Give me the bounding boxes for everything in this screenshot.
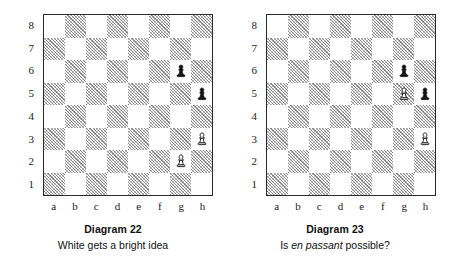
square-g5[interactable]	[170, 83, 191, 106]
square-a3[interactable]	[44, 128, 65, 151]
square-c1[interactable]	[309, 173, 330, 196]
square-h5[interactable]	[414, 83, 435, 106]
square-f8[interactable]	[372, 15, 393, 38]
square-h1[interactable]	[191, 173, 212, 196]
square-b8[interactable]	[288, 15, 309, 38]
square-f2[interactable]	[149, 150, 170, 173]
square-g6[interactable]	[393, 60, 414, 83]
square-g2[interactable]	[393, 150, 414, 173]
square-b1[interactable]	[65, 173, 86, 196]
square-d1[interactable]	[107, 173, 128, 196]
square-g8[interactable]	[170, 15, 191, 38]
square-b2[interactable]	[288, 150, 309, 173]
square-f8[interactable]	[149, 15, 170, 38]
square-b3[interactable]	[65, 128, 86, 151]
square-a1[interactable]	[44, 173, 65, 196]
square-h6[interactable]	[191, 60, 212, 83]
square-c2[interactable]	[309, 150, 330, 173]
square-h3[interactable]	[191, 128, 212, 151]
square-b6[interactable]	[288, 60, 309, 83]
square-d1[interactable]	[330, 173, 351, 196]
square-e1[interactable]	[351, 173, 372, 196]
square-e6[interactable]	[128, 60, 149, 83]
square-c2[interactable]	[86, 150, 107, 173]
square-f1[interactable]	[149, 173, 170, 196]
square-f2[interactable]	[372, 150, 393, 173]
square-d7[interactable]	[330, 38, 351, 61]
square-a2[interactable]	[44, 150, 65, 173]
square-h2[interactable]	[191, 150, 212, 173]
square-e2[interactable]	[351, 150, 372, 173]
square-c5[interactable]	[309, 83, 330, 106]
square-g7[interactable]	[393, 38, 414, 61]
square-h3[interactable]	[414, 128, 435, 151]
square-d7[interactable]	[107, 38, 128, 61]
square-d3[interactable]	[107, 128, 128, 151]
square-d2[interactable]	[330, 150, 351, 173]
square-c4[interactable]	[86, 105, 107, 128]
square-e5[interactable]	[351, 83, 372, 106]
square-b3[interactable]	[288, 128, 309, 151]
square-g5[interactable]	[393, 83, 414, 106]
square-h7[interactable]	[191, 38, 212, 61]
square-g7[interactable]	[170, 38, 191, 61]
square-a5[interactable]	[267, 83, 288, 106]
square-h1[interactable]	[414, 173, 435, 196]
square-d3[interactable]	[330, 128, 351, 151]
square-g3[interactable]	[170, 128, 191, 151]
square-d4[interactable]	[107, 105, 128, 128]
square-e8[interactable]	[128, 15, 149, 38]
square-e8[interactable]	[351, 15, 372, 38]
square-f4[interactable]	[149, 105, 170, 128]
square-f6[interactable]	[372, 60, 393, 83]
square-h4[interactable]	[414, 105, 435, 128]
square-a1[interactable]	[267, 173, 288, 196]
square-d6[interactable]	[330, 60, 351, 83]
square-h7[interactable]	[414, 38, 435, 61]
square-h6[interactable]	[414, 60, 435, 83]
square-a4[interactable]	[44, 105, 65, 128]
square-b5[interactable]	[288, 83, 309, 106]
square-d4[interactable]	[330, 105, 351, 128]
square-c1[interactable]	[86, 173, 107, 196]
square-e6[interactable]	[351, 60, 372, 83]
square-d8[interactable]	[330, 15, 351, 38]
square-c7[interactable]	[309, 38, 330, 61]
square-f7[interactable]	[149, 38, 170, 61]
square-b7[interactable]	[288, 38, 309, 61]
square-f3[interactable]	[149, 128, 170, 151]
square-a5[interactable]	[44, 83, 65, 106]
square-g1[interactable]	[393, 173, 414, 196]
square-b5[interactable]	[65, 83, 86, 106]
square-e7[interactable]	[128, 38, 149, 61]
square-e2[interactable]	[128, 150, 149, 173]
square-g6[interactable]	[170, 60, 191, 83]
square-c4[interactable]	[309, 105, 330, 128]
square-b4[interactable]	[288, 105, 309, 128]
square-d5[interactable]	[330, 83, 351, 106]
square-b6[interactable]	[65, 60, 86, 83]
square-h4[interactable]	[191, 105, 212, 128]
square-b2[interactable]	[65, 150, 86, 173]
square-a3[interactable]	[267, 128, 288, 151]
square-f1[interactable]	[372, 173, 393, 196]
square-a8[interactable]	[44, 15, 65, 38]
square-h5[interactable]	[191, 83, 212, 106]
square-e3[interactable]	[351, 128, 372, 151]
square-f6[interactable]	[149, 60, 170, 83]
square-f3[interactable]	[372, 128, 393, 151]
square-e4[interactable]	[351, 105, 372, 128]
square-g3[interactable]	[393, 128, 414, 151]
square-h2[interactable]	[414, 150, 435, 173]
square-a6[interactable]	[44, 60, 65, 83]
square-a7[interactable]	[44, 38, 65, 61]
square-e3[interactable]	[128, 128, 149, 151]
square-e7[interactable]	[351, 38, 372, 61]
square-a7[interactable]	[267, 38, 288, 61]
square-d2[interactable]	[107, 150, 128, 173]
square-a8[interactable]	[267, 15, 288, 38]
square-h8[interactable]	[414, 15, 435, 38]
square-b7[interactable]	[65, 38, 86, 61]
square-c8[interactable]	[86, 15, 107, 38]
square-a6[interactable]	[267, 60, 288, 83]
